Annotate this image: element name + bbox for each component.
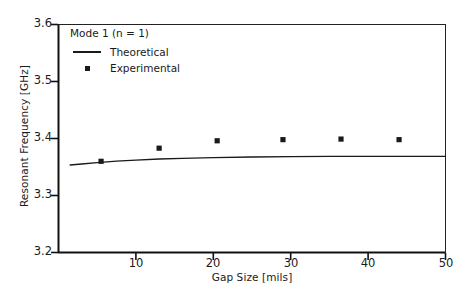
legend-item-label: Theoretical (110, 47, 169, 58)
y-axis-title: Resonant Frequency [GHz] (18, 26, 30, 246)
series-theoretical-line (70, 156, 445, 165)
y-axis-ticks (51, 25, 58, 253)
legend: Mode 1 (n = 1) Theoretical Experimental (70, 28, 180, 80)
legend-title: Mode 1 (n = 1) (70, 28, 180, 39)
x-tick-label: 50 (426, 258, 466, 270)
data-point-marker (98, 159, 103, 164)
legend-item-theoretical: Theoretical (70, 47, 180, 58)
x-tick-label: 30 (271, 258, 311, 270)
x-tick-label: 10 (116, 258, 156, 270)
y-tick-label: 3.2 (18, 246, 52, 258)
data-point-marker (338, 136, 343, 141)
legend-item-label: Experimental (110, 63, 180, 74)
line-key-icon (70, 51, 104, 53)
data-point-marker (396, 137, 401, 142)
data-point-marker (215, 138, 220, 143)
chart-figure: 3.6 3.5 3.4 3.3 3.2 10 20 30 40 50 Reson… (0, 0, 474, 291)
data-point-marker (157, 146, 162, 151)
square-marker-key-icon (70, 66, 104, 71)
x-tick-label: 40 (348, 258, 388, 270)
x-tick-label: 20 (193, 258, 233, 270)
data-point-marker (280, 137, 285, 142)
x-axis-title: Gap Size [mils] (58, 271, 446, 283)
legend-item-experimental: Experimental (70, 63, 180, 74)
